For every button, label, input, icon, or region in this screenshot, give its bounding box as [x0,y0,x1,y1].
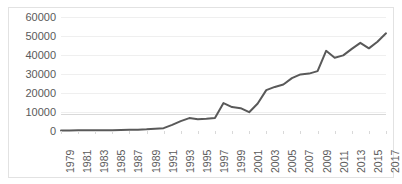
x-axis: 1979198119831985198719891991199319951997… [0,137,402,182]
x-axis-tick-label: 2017 [390,150,401,173]
gridline [61,112,386,113]
x-axis-tick-mark [249,131,250,134]
gridline [61,17,386,18]
x-axis-tick-mark [61,131,62,134]
x-axis-tick-label: 2011 [339,150,350,173]
x-axis-tick-label: 2001 [253,150,264,173]
x-axis-line [61,114,386,115]
x-axis-tick-mark [335,131,336,134]
y-axis-tick-label: 50000 [0,31,56,42]
x-axis-tick-mark [352,131,353,134]
chart-container: 0100002000030000400005000060000 19791981… [0,0,402,184]
x-axis-tick-mark [147,131,148,134]
x-axis-tick-mark [112,131,113,134]
x-axis-tick-label: 1991 [168,150,179,173]
x-axis-tick-label: 2013 [356,150,367,173]
x-axis-tick-mark [198,131,199,134]
x-axis-tick-mark [283,131,284,134]
y-axis-tick-label: 30000 [0,69,56,80]
x-axis-tick-mark [318,131,319,134]
x-axis-tick-label: 1995 [202,150,213,173]
x-axis-tick-mark [181,131,182,134]
gridline [61,55,386,56]
x-axis-tick-mark [232,131,233,134]
x-axis-tick-mark [386,131,387,134]
x-axis-tick-label: 1985 [116,150,127,173]
x-axis-tick-mark [215,131,216,134]
gridline [61,93,386,94]
x-axis-tick-label: 2007 [304,150,315,173]
x-axis-tick-mark [164,131,165,134]
x-axis-tick-mark [78,131,79,134]
x-axis-tick-label: 1997 [219,150,230,173]
y-axis-tick-label: 60000 [0,12,56,23]
x-axis-tick-label: 1979 [65,150,76,173]
x-axis-tick-mark [300,131,301,134]
x-axis-tick-mark [369,131,370,134]
x-axis-tick-label: 2015 [373,150,384,173]
x-axis-tick-label: 2009 [322,150,333,173]
x-axis-tick-label: 1989 [151,150,162,173]
x-axis-tick-mark [129,131,130,134]
x-axis-tick-label: 2005 [287,150,298,173]
y-axis-tick-label: 40000 [0,50,56,61]
y-axis-tick-label: 0 [0,126,56,137]
x-axis-tick-label: 1981 [82,150,93,173]
x-axis-tick-label: 2003 [270,150,281,173]
x-axis-tick-mark [266,131,267,134]
x-axis-tick-label: 1999 [236,150,247,173]
y-axis-tick-label: 10000 [0,107,56,118]
y-axis-tick-label: 20000 [0,88,56,99]
x-axis-tick-label: 1987 [133,150,144,173]
gridline [61,36,386,37]
x-axis-tick-label: 1983 [99,150,110,173]
gridline [61,74,386,75]
x-axis-tick-label: 1993 [185,150,196,173]
x-axis-tick-mark [95,131,96,134]
